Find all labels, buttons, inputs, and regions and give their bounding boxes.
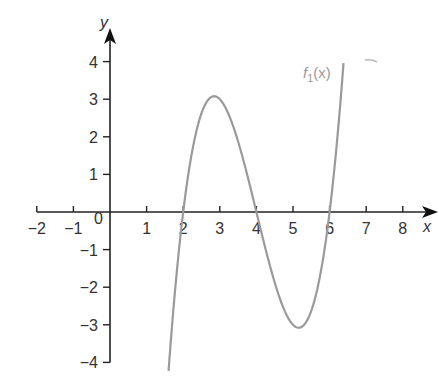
x-axis-label: x: [422, 218, 432, 235]
y-tick-label: 4: [89, 54, 98, 71]
x-tick-label: 7: [362, 220, 371, 237]
series-label-rest: (x): [313, 64, 331, 81]
stray-mark: [365, 60, 377, 62]
origin-label: 0: [94, 210, 103, 227]
y-axis-label: y: [99, 14, 109, 31]
x-tick-label: 1: [142, 220, 151, 237]
chart: x y 0 −2−112345678 4321−1−2−3−4 f1(x): [0, 0, 439, 377]
x-tick-label: −1: [64, 220, 82, 237]
y-tick-label: −4: [80, 354, 98, 371]
x-ticks: −2−112345678: [28, 206, 408, 237]
x-tick-label: −2: [28, 220, 46, 237]
x-tick-label: 3: [215, 220, 224, 237]
y-tick-label: −2: [80, 279, 98, 296]
y-tick-label: −3: [80, 317, 98, 334]
series-line-f1: [169, 63, 344, 371]
y-tick-label: 2: [89, 129, 98, 146]
x-tick-label: 5: [289, 220, 298, 237]
x-tick-label: 8: [398, 220, 407, 237]
y-tick-label: 3: [89, 91, 98, 108]
y-tick-label: 1: [89, 166, 98, 183]
y-tick-label: −1: [80, 242, 98, 259]
series-label-f1: f1(x): [303, 64, 331, 84]
